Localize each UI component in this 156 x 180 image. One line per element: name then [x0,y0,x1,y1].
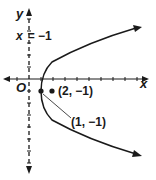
vertex-point [38,88,43,93]
y-axis-down-arrow-icon [26,166,32,174]
y-axis-up-arrow-icon [26,8,32,16]
directrix-label-eq: = −1 [28,29,52,43]
curve-bottom-arrow-icon [132,150,142,157]
x-axis-label: x [140,77,147,90]
focus-label: (2, −1) [58,85,93,97]
curve-top-arrow-icon [133,25,142,32]
directrix-label-var: x [16,29,23,43]
vertex-label: (1, −1) [71,116,106,128]
origin-label: O [16,81,26,94]
focus-point [49,88,54,93]
directrix-label: x= −1 [16,30,52,42]
x-axis-left-arrow-icon [3,76,10,82]
y-axis-label: y [16,7,23,20]
